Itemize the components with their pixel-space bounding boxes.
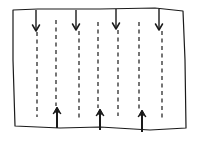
down-arrows <box>33 9 163 31</box>
up-arrow-icon <box>138 110 146 132</box>
up-arrow-icon <box>53 107 61 128</box>
down-arrow-icon <box>33 10 40 31</box>
down-arrow-icon <box>156 9 163 30</box>
down-arrow-icon <box>73 10 80 30</box>
down-arrow-icon <box>113 9 120 29</box>
dashed-lines <box>37 20 162 120</box>
diagram-canvas <box>0 0 197 143</box>
flow-diagram <box>0 0 197 143</box>
